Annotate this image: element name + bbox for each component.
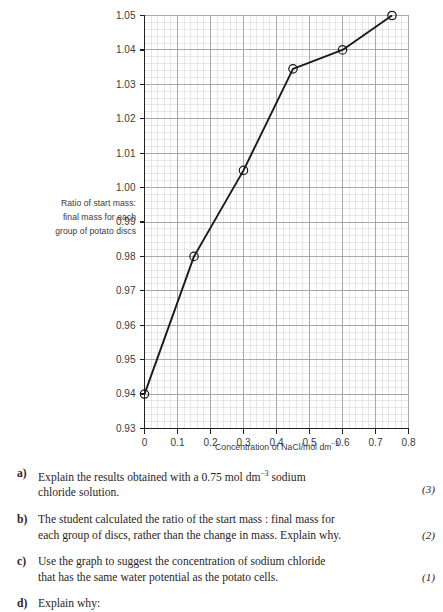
y-axis-label-line-1: Ratio of start mass: bbox=[4, 196, 136, 210]
y-axis-label: Ratio of start mass: final mass for each… bbox=[4, 196, 136, 239]
data-point-marker bbox=[388, 11, 396, 19]
y-axis-tick-label: 1.02 bbox=[116, 113, 136, 124]
y-axis-tick-label: 1.00 bbox=[116, 182, 136, 193]
question-marker-c: c) bbox=[17, 554, 26, 570]
question-d-line1: Explain why: bbox=[38, 597, 100, 610]
data-point-marker bbox=[140, 390, 148, 398]
question-marker-d: d) bbox=[17, 596, 27, 612]
question-marker-a: a) bbox=[17, 466, 27, 482]
y-axis-tick-label: 0.97 bbox=[116, 285, 136, 296]
y-axis-tick-label: 1.05 bbox=[116, 10, 136, 21]
question-c-line2: that has the same water potential as the… bbox=[38, 571, 278, 584]
y-axis-label-line-2: final mass for each bbox=[4, 210, 136, 224]
question-marks-b: (2) bbox=[422, 528, 435, 544]
question-text-b: The student calculated the ratio of the … bbox=[38, 512, 431, 543]
question-a-line1b: sodium bbox=[269, 471, 306, 484]
data-point-marker bbox=[338, 46, 346, 54]
question-text-d: Explain why: bbox=[38, 596, 431, 612]
x-axis-label: Concentration of NaCl/mol dm−3 bbox=[144, 440, 410, 452]
question-text-c: Use the graph to suggest the concentrati… bbox=[38, 554, 431, 585]
question-b-line2: each group of discs, rather than the cha… bbox=[38, 529, 341, 542]
data-point-marker bbox=[190, 252, 198, 260]
question-a-exponent: −3 bbox=[261, 469, 269, 478]
question-a-line2: chloride solution. bbox=[38, 486, 119, 499]
y-axis-tick-label: 0.93 bbox=[116, 423, 136, 434]
question-b-line1: The student calculated the ratio of the … bbox=[38, 513, 335, 526]
question-item-b: b) The student calculated the ratio of t… bbox=[0, 512, 443, 543]
question-item-a: a) Explain the results obtained with a 0… bbox=[0, 466, 443, 501]
data-series-line bbox=[145, 16, 393, 395]
x-axis-label-exponent: −3 bbox=[332, 440, 339, 447]
data-point-marker bbox=[289, 65, 297, 73]
data-point-markers bbox=[140, 11, 396, 398]
y-axis-tick-label: 1.01 bbox=[116, 148, 136, 159]
question-item-c: c) Use the graph to suggest the concentr… bbox=[0, 554, 443, 585]
y-axis-tick-label: 1.03 bbox=[116, 79, 136, 90]
axis-ticks bbox=[140, 16, 409, 434]
question-c-line1: Use the graph to suggest the concentrati… bbox=[38, 555, 326, 568]
question-a-line1: Explain the results obtained with a 0.75… bbox=[38, 471, 261, 484]
y-axis-tick-label: 1.04 bbox=[116, 44, 136, 55]
data-point-marker bbox=[239, 166, 247, 174]
y-axis-tick-label: 0.95 bbox=[116, 354, 136, 365]
question-marks-c: (1) bbox=[422, 570, 435, 586]
question-marker-b: b) bbox=[17, 512, 27, 528]
questions-list: a) Explain the results obtained with a 0… bbox=[0, 466, 443, 612]
x-axis-label-text: Concentration of NaCl/mol dm bbox=[215, 442, 332, 452]
figure-osmosis-graph: 0.930.940.950.960.970.980.991.001.011.02… bbox=[0, 0, 443, 452]
y-axis-tick-label: 0.98 bbox=[116, 251, 136, 262]
question-text-a: Explain the results obtained with a 0.75… bbox=[38, 466, 431, 501]
y-axis-tick-label: 0.96 bbox=[116, 320, 136, 331]
y-axis-tick-label: 0.94 bbox=[116, 388, 136, 399]
question-marks-a: (3) bbox=[422, 482, 435, 498]
y-axis-label-line-3: group of potato discs bbox=[4, 224, 136, 238]
question-item-d: d) Explain why: bbox=[0, 596, 443, 612]
series-polyline bbox=[145, 16, 393, 395]
